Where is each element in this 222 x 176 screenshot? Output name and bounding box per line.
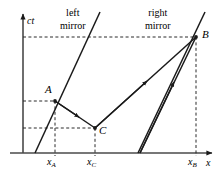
event-dot-B <box>194 35 198 39</box>
light-ray-C-to-B <box>95 37 196 128</box>
left-mirror-label-line1: left <box>60 8 86 18</box>
tick-label-x-C-sub: C <box>91 161 96 169</box>
right-mirror-label: right mirror <box>145 8 171 31</box>
point-label-B: B <box>202 29 209 40</box>
tick-label-x-B-sub: B <box>192 161 196 169</box>
spacetime-diagram-figure: ct x left mirror right mirror A C B xA x… <box>0 0 222 176</box>
tick-label-x-B: xB <box>188 157 197 169</box>
tick-label-x-A: xA <box>47 157 56 169</box>
light-ray-A-to-C <box>55 101 95 128</box>
right-mirror-label-line1: right <box>145 8 171 18</box>
event-dot-C <box>93 126 97 130</box>
point-label-A: A <box>45 84 52 95</box>
guide-lines <box>23 37 197 156</box>
tick-label-x-A-sub: A <box>51 161 55 169</box>
diagram-canvas <box>0 0 222 176</box>
worldline-right-mirror <box>138 12 205 153</box>
point-label-C: C <box>99 125 106 136</box>
axis-label-x: x <box>206 158 210 168</box>
tick-label-x-C: xC <box>87 157 96 169</box>
light-ray-origin-to-B <box>140 37 196 153</box>
right-mirror-label-line2: mirror <box>145 21 171 31</box>
left-mirror-label-line2: mirror <box>60 21 86 31</box>
left-mirror-label: left mirror <box>60 8 86 31</box>
event-dots <box>53 35 198 130</box>
axis-label-ct: ct <box>27 16 34 26</box>
event-dot-A <box>53 99 57 103</box>
